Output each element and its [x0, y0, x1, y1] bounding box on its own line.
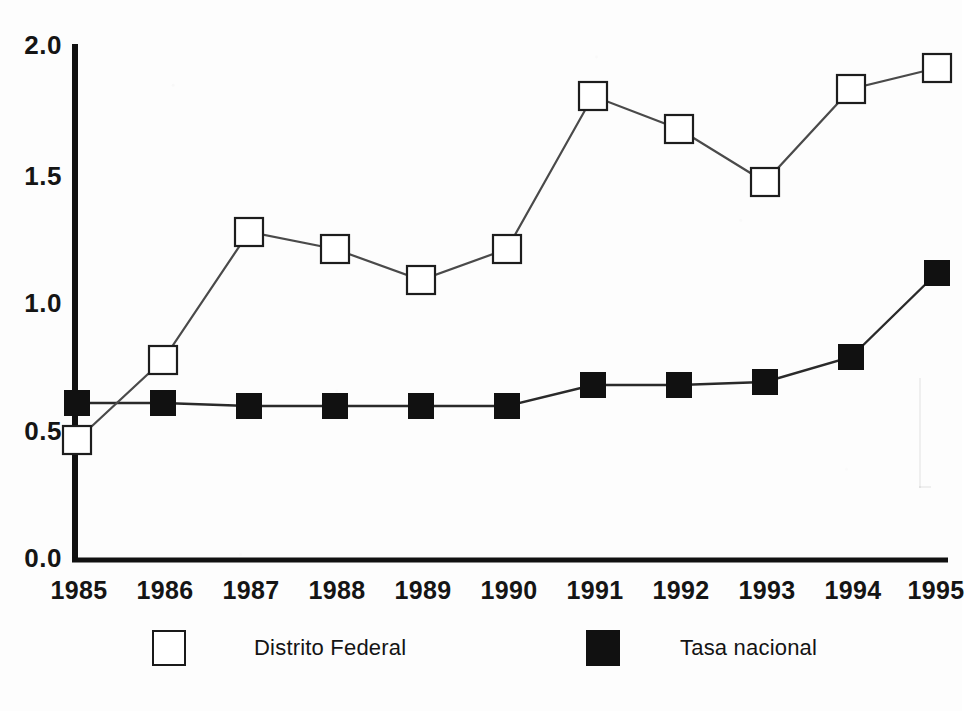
data-point-nac-1989 — [408, 393, 434, 419]
x-tick-label-1988: 1988 — [292, 578, 382, 603]
y-tick-label-0-0: 0.0 — [0, 545, 62, 571]
legend-item-distrito-federal: Distrito Federal — [152, 630, 406, 666]
data-point-df-1987 — [235, 218, 263, 246]
data-point-df-1986 — [149, 346, 177, 374]
x-tick-label-1993: 1993 — [722, 578, 812, 603]
legend-item-tasa-nacional: Tasa nacional — [586, 630, 817, 666]
x-tick-label-1990: 1990 — [464, 578, 554, 603]
legend-swatch-filled-square-icon — [586, 630, 620, 666]
data-point-nac-1995 — [924, 260, 950, 286]
data-point-nac-1992 — [666, 372, 692, 398]
series-line-tasa-nacional — [77, 273, 937, 406]
data-point-df-1985 — [63, 426, 91, 454]
data-point-df-1995 — [923, 54, 951, 82]
data-point-df-1992 — [665, 115, 693, 143]
y-tick-label-1-5: 1.5 — [0, 163, 62, 189]
x-tick-label-1989: 1989 — [378, 578, 468, 603]
data-point-nac-1987 — [236, 393, 262, 419]
data-point-nac-1986 — [150, 390, 176, 416]
chart-legend: Distrito Federal Tasa nacional — [0, 630, 962, 690]
data-point-df-1990 — [493, 235, 521, 263]
x-tick-label-1991: 1991 — [550, 578, 640, 603]
x-tick-label-1986: 1986 — [120, 578, 210, 603]
legend-swatch-open-square-icon — [152, 630, 186, 666]
data-point-nac-1990 — [494, 393, 520, 419]
x-tick-label-1995: 1995 — [891, 578, 969, 603]
legend-label-tasa-nacional: Tasa nacional — [680, 635, 817, 661]
series-markers-tasa-nacional — [64, 260, 950, 419]
x-tick-label-1985: 1985 — [34, 578, 124, 603]
data-point-df-1991 — [579, 82, 607, 110]
data-point-nac-1991 — [580, 372, 606, 398]
x-axis-tick-labels: 1985 1986 1987 1988 1989 1990 1991 1992 … — [0, 578, 962, 614]
data-point-df-1989 — [407, 266, 435, 294]
data-point-df-1988 — [321, 235, 349, 263]
x-tick-label-1992: 1992 — [636, 578, 726, 603]
legend-label-distrito-federal: Distrito Federal — [254, 635, 406, 661]
y-tick-label-0-5: 0.5 — [0, 418, 62, 444]
y-tick-label-1-0: 1.0 — [0, 290, 62, 316]
data-point-nac-1985 — [64, 390, 90, 416]
data-point-nac-1993 — [752, 369, 778, 395]
y-tick-label-2-0: 2.0 — [0, 32, 62, 58]
data-point-nac-1988 — [322, 393, 348, 419]
x-tick-label-1987: 1987 — [206, 578, 296, 603]
data-point-df-1993 — [751, 168, 779, 196]
x-tick-label-1994: 1994 — [808, 578, 898, 603]
data-point-nac-1994 — [838, 344, 864, 370]
data-point-df-1994 — [837, 75, 865, 103]
